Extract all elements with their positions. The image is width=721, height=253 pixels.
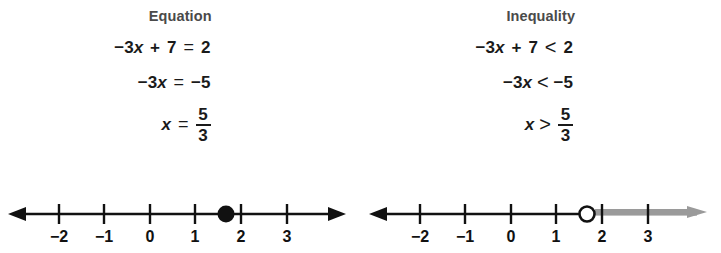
relation-symbol: = [184, 38, 195, 56]
equation-line-1: −3 x + 7 = 2 [114, 38, 210, 56]
constant-term: 7 [167, 39, 176, 56]
plus-operator: + [150, 39, 160, 56]
fraction-denominator: 3 [198, 126, 207, 144]
fraction: 5 3 [196, 106, 211, 144]
panel-title-inequality: Inequality [361, 8, 721, 24]
right-hand-side: 2 [564, 39, 573, 56]
left-arrowhead [369, 207, 387, 221]
equation-stack: −3 x + 7 = 2 −3 x = −5 x [0, 38, 361, 143]
solution-point-open [579, 207, 594, 222]
tick-label: −1 [95, 228, 113, 245]
fraction: 5 3 [558, 106, 573, 144]
tick-label: 3 [283, 228, 292, 245]
panel-inequality: Inequality −3 x + 7 < 2 −3 x < −5 [361, 0, 721, 253]
panel-title-equation: Equation [0, 8, 361, 24]
variable: x [157, 74, 166, 91]
relation-symbol: < [545, 38, 557, 56]
right-hand-side: −5 [554, 74, 573, 91]
number-line-equation: −2 −1 0 1 2 3 [0, 192, 360, 252]
coefficient: −3 [476, 39, 495, 56]
solution-shading [595, 209, 691, 215]
coefficient: −3 [138, 74, 157, 91]
tick-label: −1 [455, 228, 473, 245]
tick-label: 0 [506, 228, 515, 245]
variable: x [495, 39, 504, 56]
tick-label: 2 [237, 228, 246, 245]
shading-arrowhead [687, 206, 707, 218]
tick-label: 1 [551, 228, 560, 245]
tick-label: −2 [50, 228, 68, 245]
tick-label: 0 [146, 228, 155, 245]
coefficient: −3 [503, 74, 522, 91]
relation-symbol: < [537, 73, 549, 91]
tick-label: 1 [191, 228, 200, 245]
variable: x [162, 116, 171, 133]
coefficient: −3 [114, 39, 133, 56]
number-line-inequality: −2 −1 0 1 2 3 [361, 192, 721, 252]
fraction-numerator: 5 [561, 106, 570, 124]
equation-line-3: x = 5 3 [162, 105, 211, 143]
relation-symbol: > [539, 115, 551, 133]
constant-term: 7 [528, 39, 537, 56]
right-arrowhead [328, 207, 346, 221]
tick-label: 3 [643, 228, 652, 245]
left-arrowhead [8, 207, 26, 221]
variable: x [134, 39, 143, 56]
inequality-stack: −3 x + 7 < 2 −3 x < −5 x [361, 38, 721, 143]
inequality-line-1: −3 x + 7 < 2 [476, 38, 573, 56]
solution-point-closed [218, 206, 235, 223]
relation-symbol: = [174, 73, 185, 91]
panel-equation: Equation −3 x + 7 = 2 −3 x = −5 [0, 0, 361, 253]
relation-symbol: = [178, 115, 189, 133]
variable: x [522, 74, 531, 91]
inequality-line-3: x > 5 3 [525, 105, 573, 143]
plus-operator: + [511, 39, 521, 56]
fraction-numerator: 5 [198, 106, 207, 124]
equation-line-2: −3 x = −5 [138, 73, 211, 91]
inequality-line-2: −3 x < −5 [503, 73, 573, 91]
tick-label: 2 [597, 228, 606, 245]
tick-label: −2 [410, 228, 428, 245]
right-hand-side: −5 [191, 74, 210, 91]
math-figure: Equation −3 x + 7 = 2 −3 x = −5 [0, 0, 721, 253]
right-hand-side: 2 [201, 39, 210, 56]
variable: x [525, 116, 534, 133]
fraction-denominator: 3 [561, 126, 570, 144]
